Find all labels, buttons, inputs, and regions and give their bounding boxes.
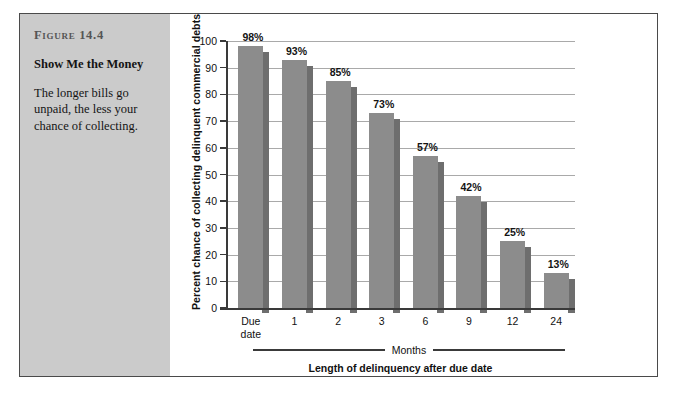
bar: 13% [544,273,569,308]
bar-value-label: 85% [330,66,351,78]
bar-face [413,156,438,308]
figure-description: The longer bills go unpaid, the less you… [34,85,158,135]
x-axis-category-label: 9 [447,315,491,328]
bar-value-label: 13% [548,258,569,270]
bar-value-label: 98% [242,31,263,43]
bar-shadow [306,66,313,313]
x-axis-category-label: 12 [491,315,535,328]
x-axis-title: Length of delinquency after due date [226,362,575,374]
gridline [226,94,575,95]
months-bracket-line-left [253,349,385,350]
figure-frame: Figure 14.4 Show Me the Money The longer… [19,13,658,377]
y-axis-tick-label: 0 [211,302,217,314]
gridline [226,68,575,69]
bar: 57% [413,156,438,308]
x-axis-category-label: 1 [273,315,317,328]
x-axis-category-label: 6 [404,315,448,328]
bar-face [369,113,394,308]
y-axis-tick-label: 100 [199,35,217,47]
y-axis-tick [220,200,226,202]
bar-face [326,81,351,308]
y-axis-tick-label: 80 [205,88,217,100]
x-axis-category-label: 3 [360,315,404,328]
x-axis-category-label: 24 [534,315,578,328]
months-bracket: Months [226,343,575,357]
y-axis-tick [220,254,226,256]
y-axis-tick-label: 50 [205,169,217,181]
y-axis-tick [220,281,226,283]
bar: 93% [282,60,307,308]
y-axis-tick-label: 90 [205,62,217,74]
bar-face [238,46,263,308]
chart-panel: Percent chance of collecting delinquent … [170,14,657,376]
bar: 73% [369,113,394,308]
bar: 42% [456,196,481,308]
y-axis-tick [220,94,226,96]
y-axis-tick-label: 40 [205,195,217,207]
bar-face [544,273,569,308]
figure-caption-panel: Figure 14.4 Show Me the Money The longer… [20,14,170,376]
bar-value-label: 42% [461,181,482,193]
bar: 85% [326,81,351,308]
bar-shadow [393,119,400,313]
y-axis-tick-label: 30 [205,222,217,234]
y-axis-tick-label: 20 [205,249,217,261]
y-axis-tick [220,120,226,122]
y-axis-tick [220,147,226,149]
y-axis-line [226,41,228,308]
figure-title: Show Me the Money [34,57,158,73]
bar-value-label: 57% [417,141,438,153]
y-axis-tick-label: 60 [205,142,217,154]
bar-face [500,241,525,308]
x-axis-line [220,308,575,310]
bar-shadow [524,247,531,313]
y-axis-tick [220,40,226,42]
bar-face [282,60,307,308]
figure-number: Figure 14.4 [34,28,158,43]
gridline [226,148,575,149]
plot-area: 98%93%85%73%57%42%25%13% 010203040506070… [226,41,575,308]
bar: 25% [500,241,525,308]
gridline [226,175,575,176]
y-axis-tick [220,227,226,229]
months-label: Months [385,344,433,356]
y-axis-tick [220,174,226,176]
y-axis-tick-label: 70 [205,115,217,127]
y-axis-tick [220,67,226,69]
bar-shadow [262,52,269,313]
y-axis-tick-label: 10 [205,275,217,287]
gridline [226,41,575,42]
bar-value-label: 73% [373,98,394,110]
y-axis-title: Percent chance of collecting delinquent … [190,32,204,310]
bar-shadow [480,202,487,313]
x-axis-category-label: 2 [316,315,360,328]
months-bracket-line-right [433,349,565,350]
gridline [226,121,575,122]
bar-face [456,196,481,308]
x-axis-category-label: Due date [229,315,273,342]
bar: 98% [238,46,263,308]
bar-shadow [437,162,444,313]
bar-value-label: 25% [504,226,525,238]
y-axis-tick [220,307,226,309]
bar-shadow [350,87,357,313]
gridline [226,201,575,202]
bar-value-label: 93% [286,45,307,57]
